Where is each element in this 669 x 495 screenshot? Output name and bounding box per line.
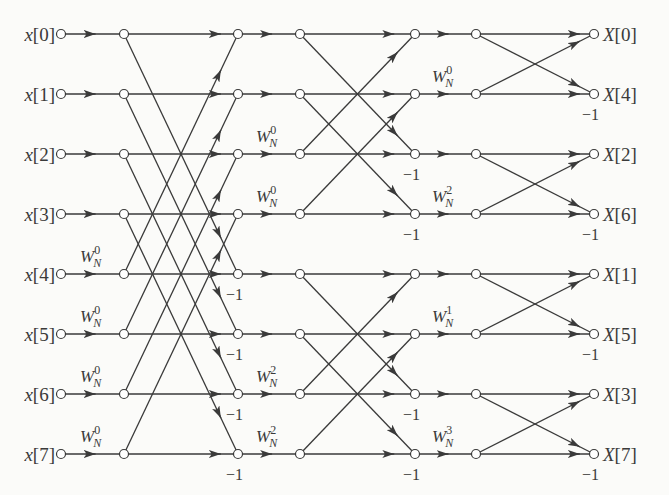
node-c4-r7	[411, 450, 420, 459]
stage-1-x-4-0-arrow-icon	[217, 70, 221, 79]
stage-3-minus-one-label-1: −1	[582, 106, 599, 123]
node-c1-r2	[120, 150, 129, 159]
node-c0-r1	[57, 90, 66, 99]
stage-2-x-4-6-arrow-icon	[391, 369, 398, 376]
stage-2-twiddle-label-6: W2N	[256, 363, 278, 390]
node-c2-r2	[234, 150, 243, 159]
node-c3-r3	[296, 210, 305, 219]
node-c0-r5	[57, 330, 66, 339]
output-label-5: X[5]	[602, 324, 637, 345]
stage-3-twiddle-label-7: W3N	[432, 423, 454, 450]
node-c5-r3	[472, 210, 481, 219]
stage-1-twiddle-label-5: W0N	[80, 303, 102, 330]
node-c1-r3	[120, 210, 129, 219]
stage-2-twiddle-label-7: W2N	[256, 423, 278, 450]
stage-1-twiddle-label-6: W0N	[80, 363, 102, 390]
input-label-6: x[6]	[23, 384, 55, 405]
stage-3-twiddle-label-3: W2N	[432, 183, 454, 210]
node-c5-r2	[472, 150, 481, 159]
node-c6-r0	[590, 30, 599, 39]
output-label-3: X[6]	[602, 204, 637, 225]
stage-1-minus-one-label-6: −1	[226, 406, 243, 423]
stage-3-x-6-7-arrow-icon	[571, 442, 580, 447]
stage-3-x-0-1-arrow-icon	[571, 82, 580, 87]
node-c0-r3	[57, 210, 66, 219]
node-c4-r4	[411, 270, 420, 279]
node-c0-r2	[57, 150, 66, 159]
stage-3-x-2-3-arrow-icon	[571, 202, 580, 207]
node-c3-r2	[296, 150, 305, 159]
stage-3-twiddle-label-5: W1N	[432, 303, 454, 330]
node-c1-r4	[120, 270, 129, 279]
stage-3-minus-one-label-5: −1	[582, 346, 599, 363]
node-c2-r3	[234, 210, 243, 219]
node-c4-r3	[411, 210, 420, 219]
node-c5-r1	[472, 90, 481, 99]
stage-2-x-6-4-arrow-icon	[391, 292, 398, 299]
stage-3-minus-one-label-7: −1	[582, 466, 599, 483]
input-label-4: x[4]	[23, 264, 55, 285]
node-c3-r7	[296, 450, 305, 459]
stage-1-minus-one-label-4: −1	[226, 286, 243, 303]
input-label-1: x[1]	[23, 84, 55, 105]
stage-1-twiddle-label-7: W0N	[80, 423, 102, 450]
output-label-1: X[4]	[602, 84, 637, 105]
node-c6-r4	[590, 270, 599, 279]
node-c1-r6	[120, 390, 129, 399]
node-c5-r5	[472, 330, 481, 339]
stage-3-minus-one-label-3: −1	[582, 226, 599, 243]
edges-layer	[61, 34, 594, 454]
node-c0-r7	[57, 450, 66, 459]
node-c6-r2	[590, 150, 599, 159]
stage-3-x-5-4-arrow-icon	[571, 281, 580, 286]
stage-1-minus-one-label-5: −1	[226, 346, 243, 363]
node-c3-r6	[296, 390, 305, 399]
output-label-4: X[1]	[602, 264, 637, 285]
stage-2-x-2-0-arrow-icon	[391, 52, 398, 59]
stage-2-twiddle-label-3: W0N	[256, 183, 278, 210]
fft-butterfly-diagram: x[0]x[1]x[2]x[3]x[4]x[5]x[6]x[7]W0NW0NW0…	[0, 0, 669, 495]
stage-2-minus-one-label-2: −1	[403, 166, 420, 183]
input-label-2: x[2]	[23, 144, 55, 165]
node-c6-r7	[590, 450, 599, 459]
stage-2-x-7-5-arrow-icon	[391, 352, 398, 359]
node-c1-r7	[120, 450, 129, 459]
node-c5-r6	[472, 390, 481, 399]
node-c2-r6	[234, 390, 243, 399]
node-c6-r5	[590, 330, 599, 339]
node-c6-r6	[590, 390, 599, 399]
node-c4-r1	[411, 90, 420, 99]
node-c0-r4	[57, 270, 66, 279]
stage-1-x-1-5-arrow-icon	[217, 289, 221, 298]
stage-1-x-2-6-arrow-icon	[217, 349, 221, 358]
stage-1-twiddle-label-4: W0N	[80, 243, 102, 270]
stage-3-twiddle-label-1: W0N	[432, 63, 454, 90]
node-c4-r6	[411, 390, 420, 399]
stage-2-x-1-3-arrow-icon	[391, 189, 398, 196]
node-c1-r0	[120, 30, 129, 39]
output-label-0: X[0]	[602, 24, 637, 45]
stage-3-x-1-0-arrow-icon	[571, 41, 580, 46]
node-c5-r4	[472, 270, 481, 279]
node-c0-r0	[57, 30, 66, 39]
stage-2-x-5-7-arrow-icon	[391, 429, 398, 436]
node-c4-r5	[411, 330, 420, 339]
node-c3-r4	[296, 270, 305, 279]
node-c6-r1	[590, 90, 599, 99]
stage-3-x-7-6-arrow-icon	[571, 401, 580, 406]
node-c4-r0	[411, 30, 420, 39]
node-c1-r1	[120, 90, 129, 99]
stage-3-x-3-2-arrow-icon	[571, 161, 580, 166]
labels-layer: x[0]x[1]x[2]x[3]x[4]x[5]x[6]x[7]W0NW0NW0…	[23, 24, 636, 483]
stage-2-x-0-2-arrow-icon	[391, 129, 398, 136]
node-c3-r5	[296, 330, 305, 339]
node-c6-r3	[590, 210, 599, 219]
fft-flow-graph: x[0]x[1]x[2]x[3]x[4]x[5]x[6]x[7]W0NW0NW0…	[0, 0, 669, 495]
stage-3-x-4-5-arrow-icon	[571, 322, 580, 327]
node-c3-r0	[296, 30, 305, 39]
stage-1-minus-one-label-7: −1	[226, 466, 243, 483]
node-c4-r2	[411, 150, 420, 159]
stage-1-x-7-3-arrow-icon	[217, 250, 221, 259]
stage-2-minus-one-label-6: −1	[403, 406, 420, 423]
node-c5-r7	[472, 450, 481, 459]
